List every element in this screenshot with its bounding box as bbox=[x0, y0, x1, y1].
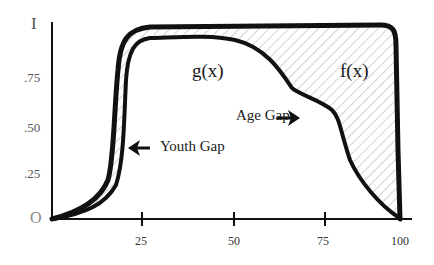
x-tick-label-50: 50 bbox=[228, 234, 240, 249]
age-gap-label: Age Gap bbox=[236, 107, 290, 124]
x-tick-label-100: 100 bbox=[391, 234, 409, 249]
y-tick-label-0: O bbox=[30, 209, 42, 227]
youth-gap-label: Youth Gap bbox=[160, 138, 225, 155]
x-tick-label-25: 25 bbox=[135, 234, 147, 249]
f-curve-label: f(x) bbox=[340, 60, 368, 82]
y-tick-label-0.75: .75 bbox=[24, 70, 40, 86]
y-tick-label-0.25: .25 bbox=[24, 166, 40, 182]
gap-chart bbox=[0, 0, 434, 265]
y-tick-label-0.50: .50 bbox=[24, 120, 40, 136]
g-curve-label: g(x) bbox=[192, 60, 224, 82]
x-tick-label-75: 75 bbox=[317, 234, 329, 249]
youth-gap-arrow-icon bbox=[128, 140, 150, 156]
y-tick-label-1: I bbox=[31, 14, 37, 34]
